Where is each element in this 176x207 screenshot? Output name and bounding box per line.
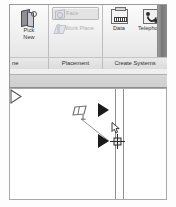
panel-title-mode: ne [10, 58, 48, 69]
arrow-cursor-icon [111, 122, 121, 134]
placement-work-plane-label: Work Plane [65, 25, 94, 32]
panel-title-create-systems: Create Systems [102, 58, 167, 69]
ribbon-panel-mode: Pick New [10, 5, 48, 57]
ribbon-panel-titles: ne Placement Create Systems [10, 57, 167, 69]
pick-new-label-line2: New [23, 34, 35, 41]
device-symbol-top[interactable] [98, 103, 109, 117]
data-button[interactable]: Data [103, 5, 135, 57]
options-bar [9, 74, 167, 88]
ribbon-body: Pick New Face Work Plane [10, 5, 167, 57]
ribbon-right-edge-scrollbar[interactable] [157, 5, 167, 57]
screenshot-root: Pick New Face Work Plane [0, 0, 176, 207]
placement-face-label: Face [66, 10, 78, 17]
work-plane-icon [54, 24, 63, 33]
crosshair-cursor-icon [110, 134, 125, 149]
data-outlet-symbol[interactable] [72, 105, 90, 121]
pick-new-label-line1: Pick [24, 27, 35, 34]
pick-new-button[interactable]: Pick New [10, 5, 48, 57]
data-button-label: Data [113, 25, 125, 32]
pick-new-icon [19, 8, 39, 26]
data-outlet-icon [111, 9, 128, 24]
panel-title-placement: Placement [48, 58, 102, 69]
device-symbol-selected[interactable] [98, 134, 109, 148]
drawing-canvas[interactable] [9, 88, 167, 200]
ribbon-panel-placement: Face Work Plane [48, 5, 102, 57]
placement-work-plane-button[interactable]: Work Plane [52, 22, 99, 35]
device-symbol-bottom[interactable] [10, 89, 21, 103]
placement-face-button[interactable]: Face [52, 7, 99, 20]
ribbon: Pick New Face Work Plane [9, 4, 167, 74]
face-icon [55, 9, 64, 18]
